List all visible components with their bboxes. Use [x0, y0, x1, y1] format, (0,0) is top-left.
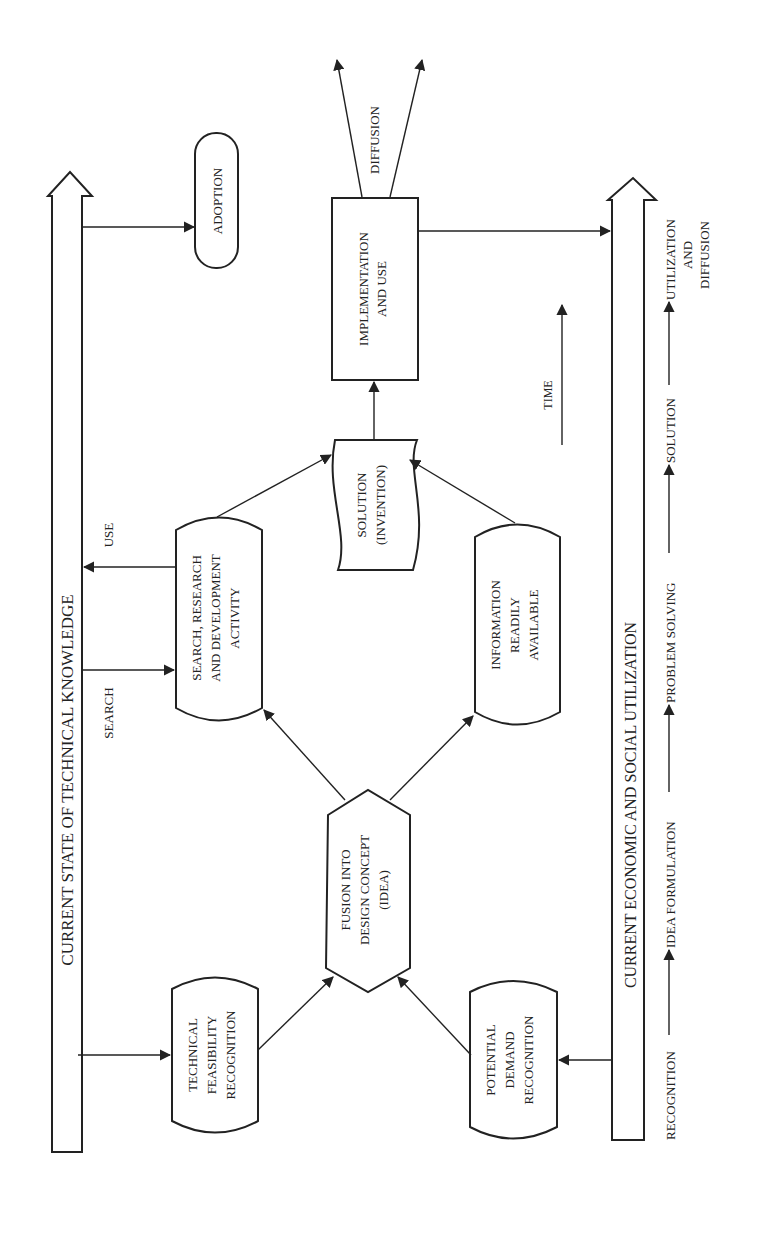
potential-demand-node: POTENTIAL DEMAND RECOGNITION: [470, 981, 557, 1139]
information-line-1: INFORMATION: [488, 580, 503, 670]
stage-recognition: RECOGNITION: [663, 1051, 678, 1140]
svg-text:IMPLEMENTATION: IMPLEMENTATION: [356, 232, 371, 346]
fusion-line-2: DESIGN CONCEPT: [357, 835, 372, 945]
stage-final-line-2: AND: [680, 241, 695, 269]
search-rd-line-1: SEARCH, RESEARCH: [189, 555, 204, 681]
svg-text:ACTIVITY: ACTIVITY: [227, 587, 242, 649]
svg-text:RECOGNITION: RECOGNITION: [223, 1010, 238, 1099]
information-line-3: AVAILABLE: [526, 589, 541, 660]
stage-problem-solving: PROBLEM SOLVING: [663, 582, 678, 703]
diffusion-label: DIFFUSION: [367, 105, 382, 174]
tech-feasibility-line-2: FEASIBILITY: [204, 1015, 219, 1094]
implementation-line-2: AND USE: [374, 261, 389, 317]
svg-text:DEMAND: DEMAND: [502, 1031, 517, 1088]
svg-text:AVAILABLE: AVAILABLE: [526, 589, 541, 660]
edge-info-to-solution: [410, 460, 515, 523]
technical-knowledge-band: CURRENT STATE OF TECHNICAL KNOWLEDGE: [48, 172, 92, 1152]
svg-text:INFORMATION: INFORMATION: [488, 580, 503, 670]
fusion-line-1: FUSION INTO: [338, 849, 353, 930]
edge-fusion-to-rd: [264, 710, 345, 800]
search-rd-line-3: ACTIVITY: [227, 587, 242, 649]
edge-rd-to-solution: [217, 455, 331, 517]
search-rd-line-2: AND DEVELOPMENT: [208, 554, 223, 682]
solution-node: SOLUTION (INVENTION): [333, 440, 420, 570]
potential-demand-line-3: RECOGNITION: [521, 1015, 536, 1104]
svg-text:POTENTIAL: POTENTIAL: [483, 1024, 498, 1096]
svg-text:AND DEVELOPMENT: AND DEVELOPMENT: [208, 554, 223, 682]
information-line-2: READILY: [507, 597, 522, 653]
use-label: USE: [101, 523, 116, 548]
diffusion-arrow-right: [390, 60, 422, 197]
edge-feasibility-to-fusion: [258, 977, 333, 1050]
edge-demand-to-fusion: [398, 977, 471, 1055]
svg-text:FEASIBILITY: FEASIBILITY: [204, 1015, 219, 1094]
potential-demand-line-1: POTENTIAL: [483, 1024, 498, 1096]
stage-solution: SOLUTION: [663, 397, 678, 463]
svg-text:TECHNICAL: TECHNICAL: [185, 1018, 200, 1092]
edge-fusion-to-info: [390, 716, 473, 800]
svg-text:SEARCH, RESEARCH: SEARCH, RESEARCH: [189, 555, 204, 681]
economic-social-band: CURRENT ECONOMIC AND SOCIAL UTILIZATION: [608, 178, 656, 1140]
time-label: TIME: [541, 380, 555, 409]
svg-text:READILY: READILY: [507, 597, 522, 653]
svg-text:FUSION INTO: FUSION INTO: [338, 849, 353, 930]
solution-line-2: (INVENTION): [373, 465, 388, 545]
svg-text:(IDEA): (IDEA): [376, 870, 391, 910]
stage-final-line-3: DIFFUSION: [697, 220, 712, 289]
adoption-label: ADOPTION: [210, 167, 225, 234]
tech-feasibility-line-1: TECHNICAL: [185, 1018, 200, 1092]
technical-feasibility-node: TECHNICAL FEASIBILITY RECOGNITION: [172, 978, 258, 1133]
svg-text:RECOGNITION: RECOGNITION: [521, 1015, 536, 1104]
tech-feasibility-line-3: RECOGNITION: [223, 1010, 238, 1099]
svg-text:SOLUTION: SOLUTION: [354, 472, 369, 538]
search-rd-node: SEARCH, RESEARCH AND DEVELOPMENT ACTIVIT…: [176, 518, 262, 721]
svg-text:AND USE: AND USE: [374, 261, 389, 317]
svg-text:(INVENTION): (INVENTION): [373, 465, 388, 545]
implementation-node: IMPLEMENTATION AND USE: [332, 198, 418, 380]
economic-social-label: CURRENT ECONOMIC AND SOCIAL UTILIZATION: [622, 621, 639, 988]
svg-text:DESIGN CONCEPT: DESIGN CONCEPT: [357, 835, 372, 945]
search-label: SEARCH: [101, 687, 116, 738]
solution-line-1: SOLUTION: [354, 472, 369, 538]
technical-knowledge-label: CURRENT STATE OF TECHNICAL KNOWLEDGE: [58, 594, 77, 965]
innovation-process-diagram: CURRENT STATE OF TECHNICAL KNOWLEDGE CUR…: [0, 0, 761, 1245]
information-node: INFORMATION READILY AVAILABLE: [475, 525, 560, 725]
potential-demand-line-2: DEMAND: [502, 1031, 517, 1088]
implementation-line-1: IMPLEMENTATION: [356, 232, 371, 346]
fusion-line-3: (IDEA): [376, 870, 391, 910]
stage-flow: RECOGNITION IDEA FORMULATION PROBLEM SOL…: [663, 219, 712, 1140]
adoption-node: ADOPTION: [195, 133, 238, 268]
diffusion-arrow-left: [337, 60, 362, 197]
fusion-node: FUSION INTO DESIGN CONCEPT (IDEA): [326, 790, 410, 992]
stage-idea-formulation: IDEA FORMULATION: [663, 821, 678, 948]
stage-final-line-1: UTILIZATION: [663, 219, 678, 300]
